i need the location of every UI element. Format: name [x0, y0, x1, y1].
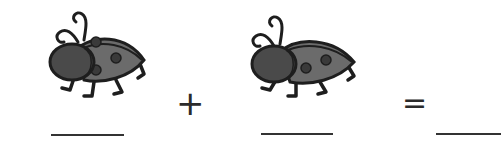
equals-sign: =	[402, 88, 427, 118]
ladybug-2	[240, 8, 362, 100]
answer-blank-2[interactable]	[261, 133, 333, 135]
ladybug-icon	[240, 8, 362, 100]
answer-blank-result[interactable]	[436, 133, 501, 135]
plus-sign: +	[176, 86, 205, 120]
ladybug-1	[26, 2, 148, 98]
ladybug-icon	[26, 2, 148, 98]
answer-blank-1[interactable]	[51, 134, 124, 136]
